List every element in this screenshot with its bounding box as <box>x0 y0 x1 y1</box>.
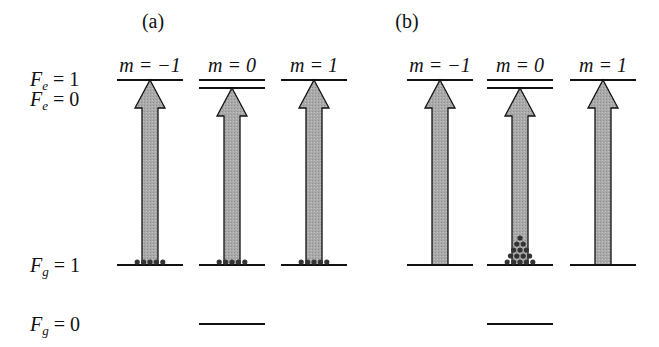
m-label: m = 0 <box>496 54 544 76</box>
population-dot <box>514 241 519 246</box>
population-dot <box>524 259 529 264</box>
pump-arrow <box>425 80 455 265</box>
m-label: m = 1 <box>579 54 627 76</box>
population-dot <box>517 247 522 252</box>
pump-arrow <box>217 88 247 265</box>
population-dot <box>524 247 529 252</box>
panel-label-b: (b) <box>395 10 418 33</box>
population-dot <box>527 253 532 258</box>
m-label: m = −1 <box>119 54 180 76</box>
population-dot <box>530 259 535 264</box>
m-label: m = −1 <box>409 54 470 76</box>
population-dot <box>229 259 234 264</box>
level-label-fe0: Fe = 0 <box>29 88 79 113</box>
population-dot <box>141 259 146 264</box>
population-dot <box>508 253 513 258</box>
pump-arrow <box>135 80 165 265</box>
panels: m = −1m = 0m = 1m = −1m = 0m = 1 <box>117 54 636 324</box>
optical-pumping-diagram: (a) (b) Fe = 1 Fe = 0 Fg = 1 Fg = 0 m = … <box>0 0 659 347</box>
population-dot <box>517 235 522 240</box>
population-dot <box>242 259 247 264</box>
panel-label-a: (a) <box>142 10 164 33</box>
population-dot <box>521 253 526 258</box>
pump-arrow <box>588 80 618 265</box>
population-dot <box>311 259 316 264</box>
level-label-fg1: Fg = 1 <box>29 254 80 279</box>
population-dot <box>135 259 140 264</box>
population-dot <box>505 259 510 264</box>
m-label: m = 0 <box>208 54 256 76</box>
population-dot <box>160 259 165 264</box>
population-dot <box>521 241 526 246</box>
population-dot <box>299 259 304 264</box>
population-dot <box>154 259 159 264</box>
population-dot <box>517 259 522 264</box>
population-dot <box>147 259 152 264</box>
population-dot <box>514 253 519 258</box>
population-dot <box>511 247 516 252</box>
population-dot <box>305 259 310 264</box>
population-dot <box>324 259 329 264</box>
pump-arrow <box>299 80 329 265</box>
population-dot <box>236 259 241 264</box>
population-dot <box>217 259 222 264</box>
population-dot <box>511 259 516 264</box>
population-dot <box>223 259 228 264</box>
m-label: m = 1 <box>290 54 338 76</box>
level-label-fg0: Fg = 0 <box>29 313 80 338</box>
population-dot <box>318 259 323 264</box>
